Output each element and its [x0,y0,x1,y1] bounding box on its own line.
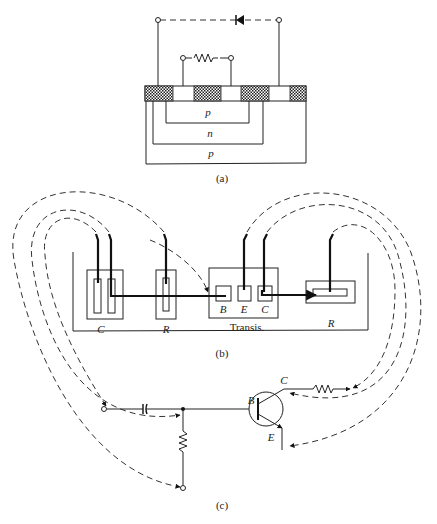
surface-layer [145,86,306,101]
terminal-left [156,18,161,23]
label-n: n [207,127,213,139]
label-b-emitter: E [240,303,248,315]
circuit-figure: p n p (a) C R B E C Transi [0,0,437,524]
caption-b: (b) [216,347,229,360]
terminal-right [277,18,282,23]
p-substrate [146,101,306,164]
label-cap: C [97,323,105,335]
diode-icon [236,15,244,25]
label-transis: Transis. [230,321,265,333]
metal-interconnect [96,234,333,296]
panel-b: C R B E C Transis. R [73,234,368,360]
label-c-collector: C [280,374,288,386]
label-p-outer: p [207,147,214,159]
input-terminal [102,407,107,412]
resistor-a [181,54,234,87]
label-c-emitter: E [267,431,275,443]
label-res2: R [327,317,335,329]
caption-c: (c) [216,499,229,512]
resistor-icon [313,385,333,393]
resistor-icon [194,54,218,62]
caption-a: (a) [216,172,229,185]
resistor-icon [179,431,187,452]
panel-a: p n p (a) [145,15,306,185]
correspondence-lines [13,192,421,487]
panel-c: B C E (c) [102,374,351,512]
label-b-base: B [220,303,227,315]
label-c-base: B [248,394,255,406]
ground-terminal [181,486,186,491]
label-res1: R [162,323,170,335]
diode-connection [156,15,282,87]
label-b-collector: C [261,303,269,315]
label-p-inner: p [204,106,211,118]
layout-capacitor: C [87,270,123,335]
